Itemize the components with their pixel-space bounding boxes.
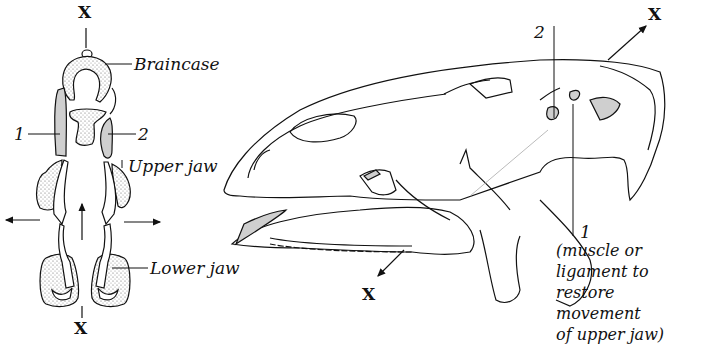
x-label-side-view-top: X — [648, 4, 661, 24]
top-view-arrows — [6, 204, 160, 240]
label-1-side: 1 — [580, 222, 591, 242]
x-label-side-view-bottom: X — [362, 284, 375, 304]
label-2-top: 2 — [138, 124, 149, 144]
label-upper-jaw: Upper jaw — [128, 156, 218, 176]
note-line: ligament to — [556, 261, 702, 282]
arrow-up-right-icon — [608, 26, 646, 60]
note-line: (muscle or — [556, 240, 702, 261]
braincase — [63, 57, 112, 103]
label-braincase: Braincase — [134, 54, 220, 74]
note-line: of upper jaw) — [556, 324, 702, 344]
x-label-top-view-top: X — [78, 2, 91, 22]
muscle-note: (muscle or ligament to restore movement … — [556, 240, 702, 344]
x-label-top-view-bottom: X — [74, 318, 87, 338]
label-1-top: 1 — [14, 124, 25, 144]
arrow-down-left-icon — [378, 250, 404, 276]
label-lower-jaw: Lower jaw — [150, 258, 240, 278]
top-view-skull — [37, 28, 131, 318]
label-2-side: 2 — [534, 22, 545, 42]
note-line: restore movement — [556, 282, 702, 324]
